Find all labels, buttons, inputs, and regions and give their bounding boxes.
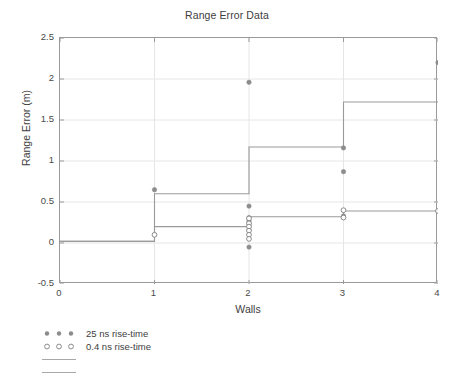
figure-canvas: Range Error Data Range Error (m) Walls -… <box>0 0 454 377</box>
x-tick-label: 0 <box>44 287 74 298</box>
y-tick-label: 2 <box>14 73 54 83</box>
chart-legend: 25 ns rise-time0.4 ns rise-time <box>40 327 220 377</box>
legend-open-marker-icon <box>40 340 84 353</box>
legend-item-label: 0.4 ns rise-time <box>84 341 151 352</box>
plot-area <box>59 37 437 283</box>
legend-line-icon <box>40 353 84 366</box>
y-tick-label: 0.5 <box>14 196 54 206</box>
x-tick-label: 1 <box>139 287 169 298</box>
plot-graphics <box>60 38 438 284</box>
series-markers-1 <box>152 60 438 249</box>
legend-line-icon <box>40 366 84 377</box>
legend-item[interactable] <box>40 366 220 377</box>
legend-item-label: 25 ns rise-time <box>84 328 148 339</box>
y-tick-label: 2.5 <box>14 32 54 42</box>
y-tick-label: 0 <box>14 237 54 247</box>
legend-item[interactable] <box>40 353 220 366</box>
x-tick-label: 2 <box>233 287 263 298</box>
legend-filled-marker-icon <box>40 327 84 340</box>
x-tick-label: 4 <box>422 287 452 298</box>
y-tick-label: 1.5 <box>14 114 54 124</box>
x-axis-label: Walls <box>59 303 437 315</box>
x-axis-tick-labels: 01234 <box>59 287 437 301</box>
y-tick-label: 1 <box>14 155 54 165</box>
legend-item[interactable]: 0.4 ns rise-time <box>40 340 220 353</box>
x-tick-label: 3 <box>328 287 358 298</box>
legend-item[interactable]: 25 ns rise-time <box>40 327 220 340</box>
series-markers-2 <box>152 208 438 242</box>
chart-title: Range Error Data <box>0 9 454 21</box>
y-axis-tick-labels: -0.500.511.522.5 <box>10 37 54 283</box>
